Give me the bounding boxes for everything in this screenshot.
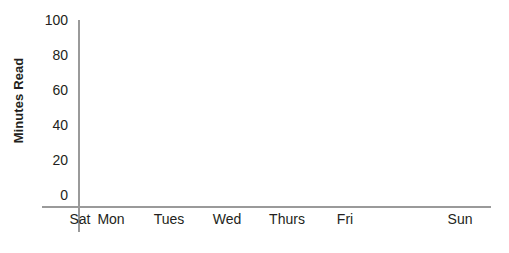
y-tick-label: 60 [52,82,68,98]
minutes-read-chart: Minutes Read 100 80 60 40 20 0 Mon Tues … [0,0,509,253]
x-tick-label: Wed [213,211,242,227]
plot-area [80,20,491,206]
x-axis-line [42,206,491,208]
x-tick-label: Fri [337,211,353,227]
y-tick-label: 20 [52,152,68,168]
y-tick-label: 100 [45,12,68,28]
y-axis-title-text: Minutes Read [12,57,27,143]
x-tick-label: Thurs [269,211,305,227]
x-tick-label: Sat [69,211,90,227]
x-tick-label: Sun [448,211,473,227]
y-axis-tick-labels: 100 80 60 40 20 0 [38,20,73,195]
x-axis-tick-labels: Mon Tues Wed Thurs Fri Sat Sun [80,211,491,235]
x-tick-label: Tues [154,211,185,227]
y-tick-label: 80 [52,47,68,63]
y-tick-label: 40 [52,117,68,133]
x-tick-label: Mon [97,211,124,227]
y-axis-title: Minutes Read [0,0,38,200]
y-tick-label: 0 [60,187,68,203]
